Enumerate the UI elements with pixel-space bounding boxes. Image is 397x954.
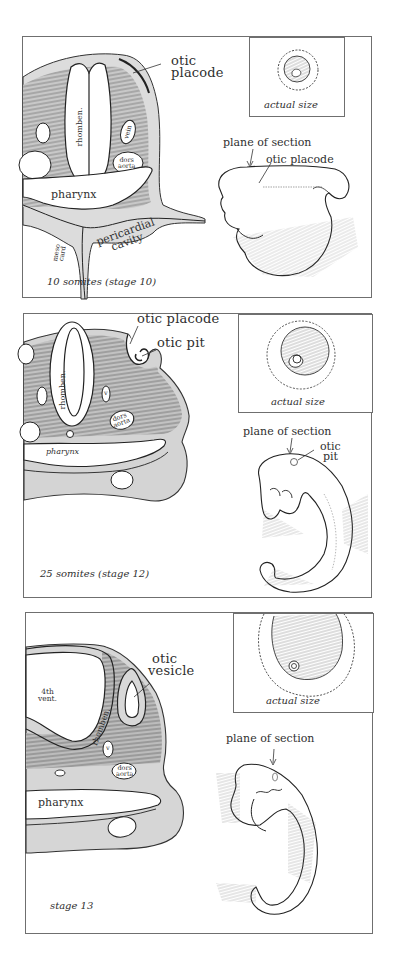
label-plane-of-section: plane of section	[223, 137, 311, 148]
caption-stage-13: stage 13	[50, 901, 93, 911]
label-otic-pit: otic pit	[157, 336, 205, 349]
label-vein: v	[104, 390, 108, 396]
embryo-stage-13	[26, 613, 374, 935]
label-fourth-ventricle: 4th vent.	[38, 688, 57, 702]
label-rhomben: rhomben.	[59, 371, 67, 410]
label-otic-vesicle: otic vesicle	[148, 653, 194, 678]
label-mesocardium: meso card	[52, 244, 67, 263]
label-line: vent.	[38, 695, 57, 702]
label-otic-placode-embryo: otic placode	[266, 154, 334, 165]
label-dorsal-aorta: dors aorta	[116, 765, 133, 777]
label-dorsal-aorta: dors aorta	[118, 157, 135, 169]
label-line: placode	[171, 67, 224, 79]
panel-stage-13: actual size otic vesicle 4th vent. rhomb…	[25, 612, 373, 934]
label-pharynx: pharynx	[46, 448, 79, 456]
label-plane-of-section: plane of section	[243, 426, 331, 437]
panel-stage-12: actual size otic placode otic pit rhombe…	[23, 313, 372, 598]
label-vein: v	[106, 745, 110, 751]
label-line: pit	[320, 452, 341, 462]
panel-stage-10: actual size otic placode rhomben. vein d…	[22, 36, 372, 298]
caption-stage-10: 10 somites (stage 10)	[47, 277, 156, 287]
label-line: vesicle	[148, 665, 194, 677]
caption-stage-12: 25 somites (stage 12)	[40, 569, 149, 579]
label-otic-placode: otic placode	[137, 312, 219, 325]
label-otic-placode: otic placode	[171, 55, 224, 80]
label-otic-pit-embryo: otic pit	[320, 442, 341, 463]
label-line: aorta	[118, 163, 135, 169]
label-line: aorta	[116, 771, 133, 777]
label-rhomben: rhomben.	[76, 108, 84, 147]
label-plane-of-section: plane of section	[226, 733, 314, 744]
label-pharynx: pharynx	[38, 797, 83, 808]
label-pharynx: pharynx	[51, 189, 96, 200]
